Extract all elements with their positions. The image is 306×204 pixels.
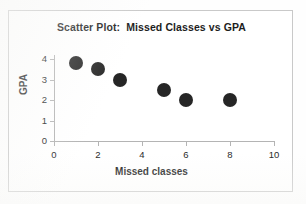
data-point [179,93,193,107]
x-axis-title: Missed classes [9,166,294,177]
y-tick-label: 0 [23,135,47,146]
x-tick-label: 2 [86,149,110,160]
y-tick-label: 1 [23,115,47,126]
x-tick-label: 10 [262,149,286,160]
scanned-page: Scatter Plot: Missed Classes vs GPA GPA … [0,0,306,204]
x-tick [230,142,231,146]
x-axis-line [54,141,275,142]
x-tick [274,142,275,146]
x-tick-label: 8 [218,149,242,160]
data-point [157,83,171,97]
chart-title: Scatter Plot: Missed Classes vs GPA [9,21,294,33]
x-tick [54,142,55,146]
y-tick-label: 2 [23,94,47,105]
plot-area [54,49,274,131]
y-tick-label: 3 [23,74,47,85]
data-point [91,62,105,76]
x-tick-label: 4 [130,149,154,160]
x-tick [142,142,143,146]
data-point [69,56,83,70]
data-point [223,93,237,107]
x-tick-label: 0 [42,149,66,160]
x-tick [186,142,187,146]
x-tick-label: 6 [174,149,198,160]
x-tick [98,142,99,146]
data-point [113,73,127,87]
chart-frame: Scatter Plot: Missed Classes vs GPA GPA … [8,10,293,192]
y-tick-label: 4 [23,53,47,64]
